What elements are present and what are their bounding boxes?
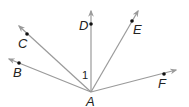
angle-label-1: 1 bbox=[82, 69, 88, 81]
label-b: B bbox=[13, 65, 22, 80]
label-e: E bbox=[133, 22, 142, 37]
ray-ae bbox=[91, 11, 138, 92]
rays-diagram: B C D E F A 1 bbox=[0, 0, 189, 107]
ray-ac bbox=[19, 26, 91, 92]
point-d bbox=[89, 22, 93, 26]
label-f: F bbox=[158, 76, 167, 91]
label-a: A bbox=[85, 94, 95, 107]
label-c: C bbox=[18, 36, 28, 51]
label-d: D bbox=[79, 18, 88, 33]
